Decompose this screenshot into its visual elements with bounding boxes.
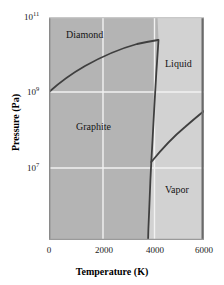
x-tick-4000: 4000 <box>139 245 171 255</box>
y-tick-1e9: 109 <box>27 87 39 97</box>
x-axis-title: Temperature (K) <box>0 266 224 277</box>
y-tick-1e7-mantissa: 10 <box>27 163 36 173</box>
x-tick-6000: 6000 <box>188 245 220 255</box>
plot-area: Diamond Graphite Liquid Vapor <box>49 17 204 240</box>
phase-diagram-plot <box>49 17 204 240</box>
y-tick-1e11: 1011 <box>24 12 39 22</box>
y-tick-1e9-exponent: 9 <box>36 85 39 92</box>
x-tick-0: 0 <box>39 245 59 255</box>
y-tick-1e7-exponent: 7 <box>36 161 39 168</box>
y-axis-title: Pressure (Pa) <box>10 73 21 173</box>
phase-diagram-figure: Diamond Graphite Liquid Vapor 1011 109 1… <box>0 0 224 285</box>
region-label-diamond: Diamond <box>66 29 103 40</box>
y-tick-1e11-exponent: 11 <box>33 10 39 17</box>
x-tick-2000: 2000 <box>88 245 120 255</box>
y-tick-1e7: 107 <box>27 163 39 173</box>
region-label-liquid: Liquid <box>165 58 192 69</box>
y-tick-1e11-mantissa: 10 <box>24 12 33 22</box>
region-label-graphite: Graphite <box>76 121 111 132</box>
y-tick-1e9-mantissa: 10 <box>27 87 36 97</box>
region-label-vapor: Vapor <box>165 184 189 195</box>
